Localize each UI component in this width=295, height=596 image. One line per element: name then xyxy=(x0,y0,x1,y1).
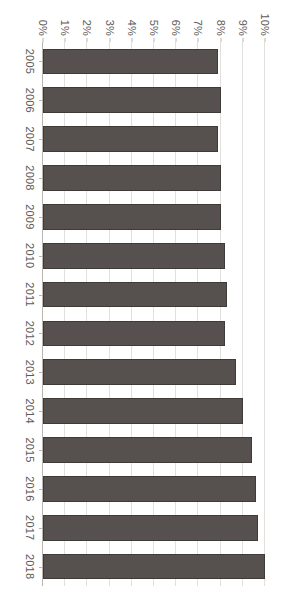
bar[interactable] xyxy=(43,321,225,347)
category-tick-mark xyxy=(39,567,43,568)
category-slot: 2013 xyxy=(0,353,43,392)
category-tick-label: 2009 xyxy=(24,204,36,229)
category-slot: 2018 xyxy=(0,547,43,586)
value-tick-label: 3% xyxy=(104,20,116,36)
bar-slot xyxy=(43,159,265,198)
bar-slot xyxy=(43,431,265,470)
bar-slot xyxy=(43,508,265,547)
bar[interactable] xyxy=(43,515,258,541)
category-tick-label: 2007 xyxy=(24,127,36,152)
category-tick-label: 2008 xyxy=(24,165,36,190)
bar[interactable] xyxy=(43,554,265,580)
category-axis: 2005200620072008200920102011201220132014… xyxy=(0,42,43,586)
category-slot: 2014 xyxy=(0,392,43,431)
category-tick-label: 2018 xyxy=(24,554,36,579)
value-tick-label: 8% xyxy=(215,20,227,36)
bar-slot xyxy=(43,392,265,431)
category-tick-mark xyxy=(39,217,43,218)
category-tick-label: 2016 xyxy=(24,476,36,501)
category-tick-mark xyxy=(39,528,43,529)
bar[interactable] xyxy=(43,87,221,113)
bar[interactable] xyxy=(43,126,218,152)
bar-slot xyxy=(43,353,265,392)
category-tick-label: 2011 xyxy=(24,282,36,306)
category-slot: 2009 xyxy=(0,197,43,236)
bar[interactable] xyxy=(43,243,225,269)
category-tick-label: 2013 xyxy=(24,360,36,385)
bar[interactable] xyxy=(43,49,218,75)
category-tick-label: 2006 xyxy=(24,88,36,113)
bar[interactable] xyxy=(43,359,236,385)
category-slot: 2005 xyxy=(0,42,43,81)
bar-slot xyxy=(43,314,265,353)
category-tick-mark xyxy=(39,61,43,62)
category-tick-mark xyxy=(39,256,43,257)
chart-stage: 10%9%8%7%6%5%4%3%2%1%0% 2005200620072008… xyxy=(0,0,295,596)
category-slot: 2015 xyxy=(0,431,43,470)
value-tick-label: 10% xyxy=(259,13,271,36)
value-tick-label: 5% xyxy=(148,20,160,36)
value-tick-label: 0% xyxy=(37,20,49,36)
bar-slot xyxy=(43,275,265,314)
category-tick-mark xyxy=(39,295,43,296)
category-tick-mark xyxy=(39,139,43,140)
category-tick-mark xyxy=(39,489,43,490)
category-tick-mark xyxy=(39,333,43,334)
category-slot: 2010 xyxy=(0,236,43,275)
bar-series xyxy=(43,42,265,586)
bar-slot xyxy=(43,42,265,81)
value-tick-label: 6% xyxy=(170,20,182,36)
bar-slot xyxy=(43,547,265,586)
category-slot: 2012 xyxy=(0,314,43,353)
category-slot: 2017 xyxy=(0,508,43,547)
bar-slot xyxy=(43,236,265,275)
value-tick-label: 2% xyxy=(81,20,93,36)
category-slot: 2007 xyxy=(0,120,43,159)
category-tick-mark xyxy=(39,411,43,412)
category-tick-mark xyxy=(39,178,43,179)
bar[interactable] xyxy=(43,437,252,463)
bar[interactable] xyxy=(43,282,227,308)
category-tick-label: 2015 xyxy=(24,437,36,462)
value-tick-label: 1% xyxy=(59,20,71,36)
bar[interactable] xyxy=(43,476,256,502)
bar[interactable] xyxy=(43,165,221,191)
category-tick-label: 2014 xyxy=(24,399,36,424)
bar-slot xyxy=(43,197,265,236)
category-tick-mark xyxy=(39,100,43,101)
bar-slot xyxy=(43,81,265,120)
category-tick-label: 2005 xyxy=(24,49,36,74)
category-tick-mark xyxy=(39,372,43,373)
bar[interactable] xyxy=(43,204,221,230)
bar-slot xyxy=(43,120,265,159)
category-slot: 2016 xyxy=(0,469,43,508)
category-tick-mark xyxy=(39,450,43,451)
value-tick-label: 7% xyxy=(192,20,204,36)
value-tick-label: 4% xyxy=(126,20,138,36)
bar-slot xyxy=(43,469,265,508)
value-axis: 10%9%8%7%6%5%4%3%2%1%0% xyxy=(43,0,265,42)
category-tick-label: 2017 xyxy=(24,515,36,540)
category-slot: 2006 xyxy=(0,81,43,120)
bar[interactable] xyxy=(43,398,243,424)
category-slot: 2008 xyxy=(0,159,43,198)
value-tick-label: 9% xyxy=(237,20,249,36)
category-tick-label: 2010 xyxy=(24,243,36,268)
category-slot: 2011 xyxy=(0,275,43,314)
bar-chart: 10%9%8%7%6%5%4%3%2%1%0% 2005200620072008… xyxy=(0,0,295,596)
category-tick-label: 2012 xyxy=(24,321,36,346)
plot-area xyxy=(43,42,265,586)
